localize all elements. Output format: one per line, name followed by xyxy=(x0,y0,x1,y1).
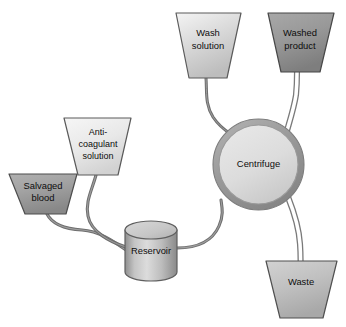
tube-wash-solution-to-centrifuge xyxy=(206,78,231,134)
node-wash-solution[interactable]: Wash solution xyxy=(176,13,241,78)
node-salvaged-blood[interactable]: Salvaged blood xyxy=(9,174,77,214)
tube-reservoir-to-centrifuge xyxy=(177,200,222,248)
diagram-canvas: Salvaged blood Anti- coagulant solution … xyxy=(0,0,346,327)
tube-centrifuge-to-washed-product xyxy=(284,72,300,135)
cell-salvage-diagram: Salvaged blood Anti- coagulant solution … xyxy=(0,0,346,327)
tube-centrifuge-to-waste xyxy=(286,196,303,261)
node-waste[interactable]: Waste xyxy=(266,261,337,318)
node-washed-product[interactable]: Washed product xyxy=(268,13,334,72)
node-centrifuge[interactable]: Centrifuge xyxy=(213,119,304,210)
tube-salvaged-blood-to-reservoir xyxy=(47,214,126,250)
node-anticoagulant-solution[interactable]: Anti- coagulant solution xyxy=(64,118,131,175)
node-reservoir[interactable]: Reservoir xyxy=(125,221,177,281)
